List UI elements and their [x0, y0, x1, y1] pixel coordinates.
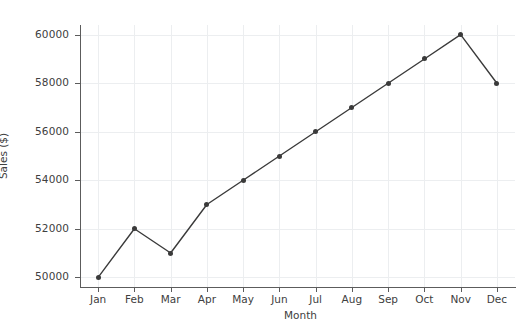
y-tick-mark [75, 180, 80, 181]
y-tick-mark [75, 229, 80, 230]
y-tick-label: 54000 [35, 173, 69, 185]
y-tick-label: 56000 [35, 125, 69, 137]
x-tick-label: Apr [198, 293, 216, 305]
y-tick-label: 50000 [35, 270, 69, 282]
x-tick-mark [207, 288, 208, 292]
chart-figure: Sales ($) 500005200054000560005800060000… [0, 0, 521, 331]
data-point [386, 81, 391, 86]
x-tick-label: Feb [125, 293, 144, 305]
data-point [277, 154, 282, 159]
y-tick-label: 60000 [35, 28, 69, 40]
x-tick-label: Jun [271, 293, 287, 305]
y-tick-mark [75, 83, 80, 84]
y-tick-mark [75, 277, 80, 278]
y-axis-label-wrap: Sales ($) [22, 25, 36, 287]
x-tick-label: Jul [309, 293, 322, 305]
x-axis-spine [80, 287, 516, 288]
x-tick-mark [497, 288, 498, 292]
x-tick-label: Sep [378, 293, 398, 305]
x-tick-label: Jan [90, 293, 106, 305]
x-tick-mark [98, 288, 99, 292]
y-tick-mark [75, 35, 80, 36]
x-tick-mark [171, 288, 172, 292]
x-tick-label: Aug [342, 293, 363, 305]
x-tick-mark [279, 288, 280, 292]
x-tick-label: Oct [415, 293, 433, 305]
plot-area [80, 25, 515, 287]
x-axis-label-wrap: Month [0, 309, 521, 321]
x-tick-label: Dec [487, 293, 507, 305]
y-axis-label: Sales ($) [0, 133, 9, 179]
x-tick-mark [352, 288, 353, 292]
x-tick-mark [424, 288, 425, 292]
x-tick-label: Nov [450, 293, 471, 305]
x-tick-mark [461, 288, 462, 292]
x-tick-label: Mar [161, 293, 181, 305]
data-point [96, 275, 101, 280]
data-point [168, 251, 173, 256]
x-axis-label: Month [284, 309, 317, 321]
x-tick-mark [243, 288, 244, 292]
y-tick-label: 58000 [35, 76, 69, 88]
x-tick-label: May [232, 293, 254, 305]
y-tick-label: 52000 [35, 222, 69, 234]
y-axis-spine [80, 25, 81, 288]
data-point [241, 178, 246, 183]
x-tick-mark [134, 288, 135, 292]
line-series [80, 25, 515, 287]
x-tick-mark [316, 288, 317, 292]
x-tick-mark [388, 288, 389, 292]
y-tick-mark [75, 132, 80, 133]
